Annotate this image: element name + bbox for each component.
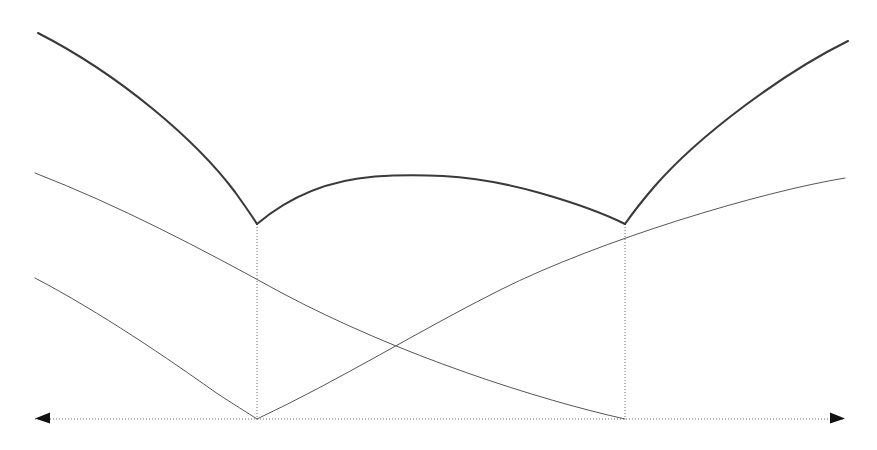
figure-canvas — [0, 0, 877, 450]
curve-diagram-svg — [0, 0, 877, 450]
figure-background — [0, 0, 877, 450]
